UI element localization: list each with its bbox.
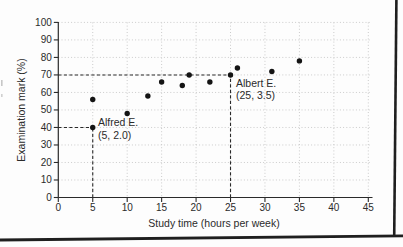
x-tick-label: 40 bbox=[328, 202, 340, 213]
x-tick-label: 20 bbox=[191, 202, 203, 213]
annotation-alfred-name: Alfred E. bbox=[98, 116, 138, 129]
annotation-alfred-coords: (5, 2.0) bbox=[98, 129, 138, 142]
y-tick-label: 10 bbox=[41, 174, 53, 185]
x-tick-label: 30 bbox=[259, 202, 271, 213]
data-point bbox=[145, 93, 150, 98]
y-tick-label: 100 bbox=[35, 17, 52, 28]
x-tick-label: 5 bbox=[90, 202, 96, 213]
data-point bbox=[207, 79, 212, 84]
x-tick-label: 25 bbox=[225, 202, 237, 213]
page-edge-artifact bbox=[1, 80, 3, 86]
data-point bbox=[90, 125, 95, 130]
y-tick-label: 60 bbox=[41, 87, 53, 98]
data-point bbox=[269, 69, 274, 74]
data-point bbox=[235, 65, 240, 70]
data-point bbox=[297, 58, 302, 63]
x-tick-label: 0 bbox=[56, 202, 62, 213]
x-axis-label: Study time (hours per week) bbox=[57, 217, 371, 229]
x-tick-label: 15 bbox=[156, 202, 168, 213]
x-tick-label: 45 bbox=[363, 202, 375, 213]
data-point bbox=[180, 83, 185, 88]
y-tick-label: 90 bbox=[41, 34, 53, 45]
annotation-albert-name: Albert E. bbox=[236, 77, 276, 90]
frame-right-line bbox=[394, 0, 396, 237]
y-tick-label: 50 bbox=[41, 104, 53, 115]
data-point bbox=[90, 97, 95, 102]
data-point bbox=[186, 72, 191, 77]
y-axis-label: Examination mark (%) bbox=[15, 58, 27, 161]
y-tick-label: 20 bbox=[41, 157, 53, 168]
data-point bbox=[159, 79, 164, 84]
y-tick-label: 40 bbox=[41, 122, 53, 133]
y-tick-label: 70 bbox=[41, 69, 53, 80]
annotation-albert-coords: (25, 3.5) bbox=[236, 89, 276, 102]
page-edge-artifact bbox=[1, 94, 3, 97]
annotation-albert: Albert E. (25, 3.5) bbox=[236, 77, 276, 102]
x-tick-label: 35 bbox=[294, 202, 306, 213]
y-tick-label: 30 bbox=[41, 139, 53, 150]
y-tick-label: 80 bbox=[41, 52, 53, 63]
x-tick-label: 10 bbox=[122, 202, 134, 213]
scatter-chart-canvas: 0102030405060708090100051015202530354045 bbox=[0, 0, 403, 247]
frame-bottom-line bbox=[0, 236, 403, 240]
data-point bbox=[228, 72, 233, 77]
y-tick-label: 0 bbox=[46, 192, 52, 203]
scatter-plot-figure: 0102030405060708090100051015202530354045… bbox=[0, 0, 403, 247]
annotation-alfred: Alfred E. (5, 2.0) bbox=[98, 116, 138, 141]
